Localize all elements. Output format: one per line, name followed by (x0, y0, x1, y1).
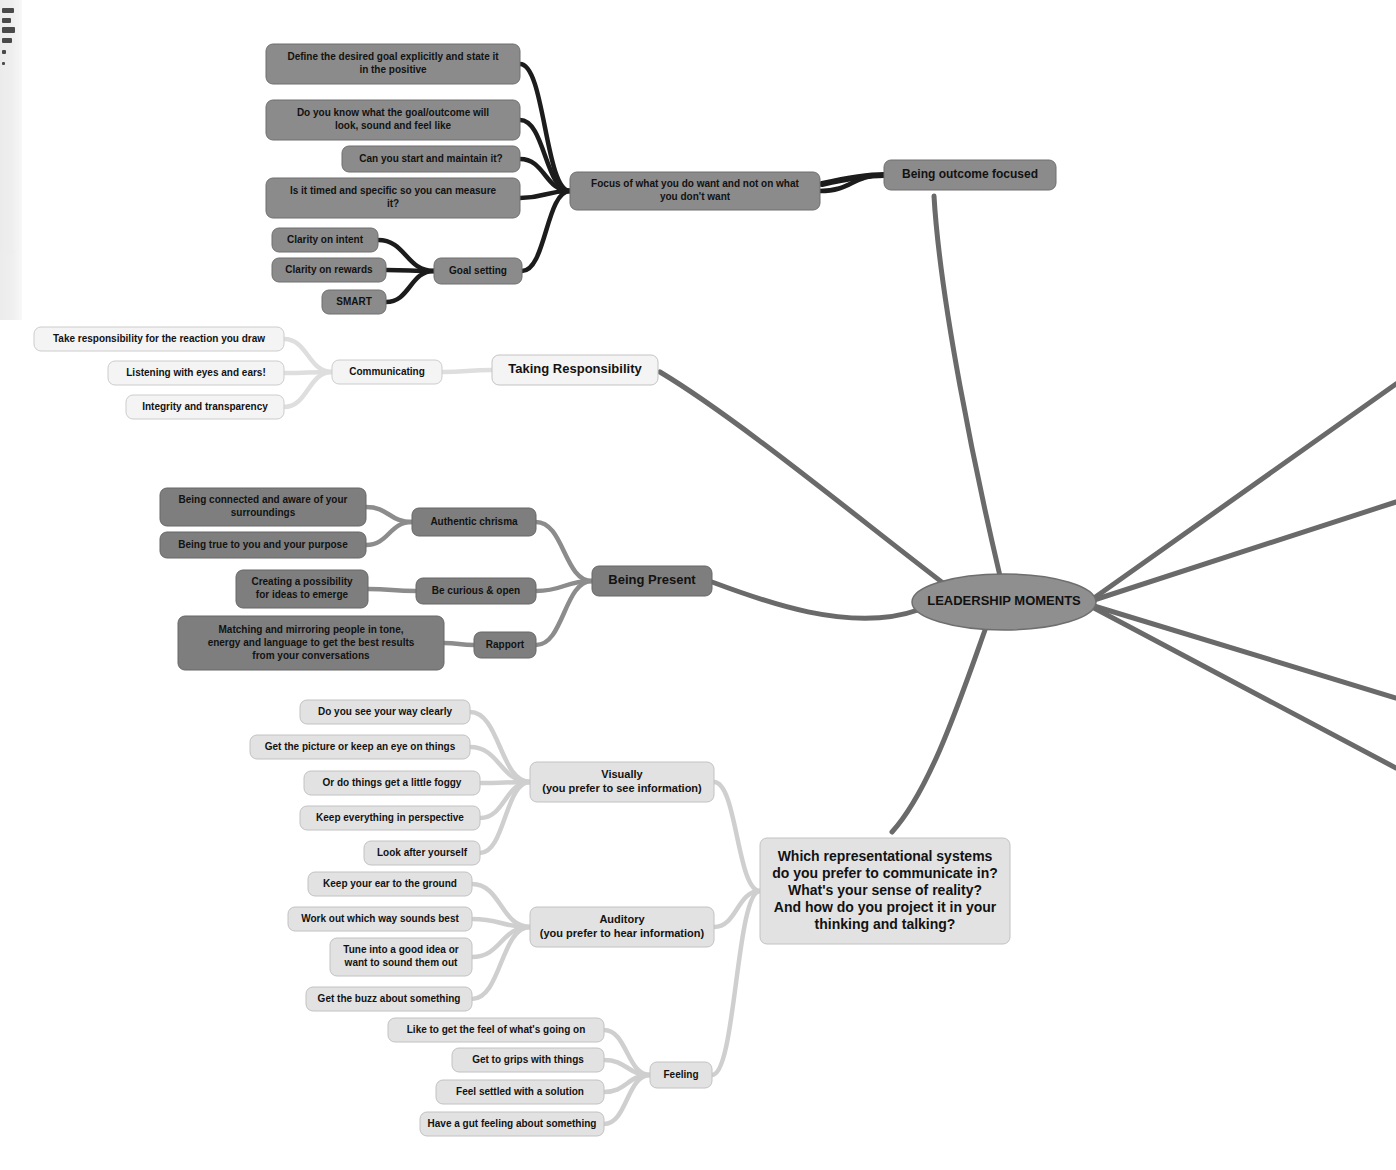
node-take-responsibility-for-reaction[interactable]: Take responsibility for the reaction you… (34, 327, 284, 351)
edge-taking-responsibility-to-communicating (442, 370, 492, 372)
node-shape-do-you-see-your-way-clearly (300, 700, 470, 724)
node-auditory[interactable]: Auditory(you prefer to hear information) (530, 907, 714, 947)
node-feeling[interactable]: Feeling (650, 1062, 712, 1088)
node-shape-taking-responsibility (492, 355, 658, 385)
node-shape-creating-a-possibility (236, 570, 368, 608)
node-focus-of-what-you-want[interactable]: Focus of what you do want and not on wha… (570, 172, 820, 210)
center-ellipse (912, 574, 1096, 630)
node-be-curious-and-open[interactable]: Be curious & open (416, 578, 536, 604)
node-shape-authentic-chrisma (412, 508, 536, 536)
node-keep-everything-in-perspective[interactable]: Keep everything in perspective (300, 806, 480, 830)
node-matching-and-mirroring[interactable]: Matching and mirroring people in tone,en… (178, 616, 444, 670)
node-feel-settled-with-a-solution[interactable]: Feel settled with a solution (436, 1080, 604, 1104)
edge-center-to-taking-responsibility (660, 372, 960, 596)
edge-feeling-to-get-to-grips-with-things (604, 1060, 650, 1075)
node-keep-your-ear-to-the-ground[interactable]: Keep your ear to the ground (308, 872, 472, 896)
node-get-the-buzz-about-something[interactable]: Get the buzz about something (306, 987, 472, 1011)
edge-center-to-being-present (712, 582, 918, 618)
edge-center-to-outcome (934, 196, 1000, 576)
node-shape-feel-settled-with-a-solution (436, 1080, 604, 1104)
node-being-present[interactable]: Being Present (592, 566, 712, 596)
node-shape-feeling (650, 1062, 712, 1088)
node-being-outcome-focused[interactable]: Being outcome focused (884, 160, 1056, 190)
node-can-you-start-and-maintain[interactable]: Can you start and maintain it? (342, 146, 520, 172)
node-shape-like-to-get-the-feel (388, 1018, 604, 1042)
edge-authentic-chrisma-to-being-connected-and-aware (366, 507, 412, 522)
node-shape-visually (530, 762, 714, 802)
node-shape-listening-with-eyes-and-ears (108, 361, 284, 385)
node-clarity-on-rewards[interactable]: Clarity on rewards (272, 258, 386, 282)
edge-right-1 (1094, 384, 1396, 598)
node-do-you-know-what-goal-will[interactable]: Do you know what the goal/outcome willlo… (266, 100, 520, 140)
node-shape-tune-into-a-good-idea (330, 938, 472, 976)
node-shape-being-connected-and-aware (160, 488, 366, 526)
node-shape-work-out-which-way-sounds-best (288, 907, 472, 931)
node-authentic-chrisma[interactable]: Authentic chrisma (412, 508, 536, 536)
node-shape-define-desired-goal (266, 44, 520, 84)
edge-auditory-to-get-the-buzz-about-something (472, 927, 530, 999)
node-goal-setting[interactable]: Goal setting (434, 258, 522, 284)
node-shape-being-outcome-focused (884, 160, 1056, 190)
center-node[interactable]: LEADERSHIP MOMENTS (912, 574, 1096, 630)
edge-communicating-to-take-responsibility-for-reaction (284, 339, 332, 372)
node-shape-take-responsibility-for-reaction (34, 327, 284, 351)
node-rapport[interactable]: Rapport (474, 632, 536, 658)
node-shape-have-a-gut-feeling (420, 1112, 604, 1136)
node-taking-responsibility[interactable]: Taking Responsibility (492, 355, 658, 385)
edge-goal-setting-to-smart (386, 271, 434, 302)
edge-right-2 (1094, 502, 1396, 600)
node-smart[interactable]: SMART (322, 290, 386, 314)
node-look-after-yourself[interactable]: Look after yourself (364, 841, 480, 865)
node-shape-being-true-to-you (160, 532, 366, 558)
node-shape-or-do-things-get-foggy (304, 771, 480, 795)
node-shape-get-to-grips-with-things (452, 1048, 604, 1072)
node-tune-into-a-good-idea[interactable]: Tune into a good idea orwant to sound th… (330, 938, 472, 976)
mindmap-svg: Being outcome focusedFocus of what you d… (0, 0, 1396, 1170)
node-shape-rapport (474, 632, 536, 658)
node-representational-systems[interactable]: Which representational systemsdo you pre… (760, 838, 1010, 944)
node-communicating[interactable]: Communicating (332, 360, 442, 384)
node-shape-focus-of-what-you-want (570, 172, 820, 210)
node-shape-be-curious-and-open (416, 578, 536, 604)
node-integrity-and-transparency[interactable]: Integrity and transparency (126, 395, 284, 419)
node-shape-keep-everything-in-perspective (300, 806, 480, 830)
node-shape-look-after-yourself (364, 841, 480, 865)
node-shape-clarity-on-rewards (272, 258, 386, 282)
node-shape-representational-systems (760, 838, 1010, 944)
node-do-you-see-your-way-clearly[interactable]: Do you see your way clearly (300, 700, 470, 724)
node-shape-do-you-know-what-goal-will (266, 100, 520, 140)
node-get-the-picture[interactable]: Get the picture or keep an eye on things (250, 735, 470, 759)
node-or-do-things-get-foggy[interactable]: Or do things get a little foggy (304, 771, 480, 795)
node-clarity-on-intent[interactable]: Clarity on intent (272, 228, 378, 252)
node-listening-with-eyes-and-ears[interactable]: Listening with eyes and ears! (108, 361, 284, 385)
edge-focus-of-what-you-want-to-goal-setting (522, 191, 570, 271)
node-have-a-gut-feeling[interactable]: Have a gut feeling about something (420, 1112, 604, 1136)
node-visually[interactable]: Visually(you prefer to see information) (530, 762, 714, 802)
node-shape-goal-setting (434, 258, 522, 284)
edge-rapport-to-matching-and-mirroring (444, 643, 474, 645)
node-work-out-which-way-sounds-best[interactable]: Work out which way sounds best (288, 907, 472, 931)
node-shape-smart (322, 290, 386, 314)
edge-communicating-to-integrity-and-transparency (284, 372, 332, 407)
node-shape-get-the-picture (250, 735, 470, 759)
node-shape-clarity-on-intent (272, 228, 378, 252)
node-shape-get-the-buzz-about-something (306, 987, 472, 1011)
node-shape-keep-your-ear-to-the-ground (308, 872, 472, 896)
node-shape-integrity-and-transparency (126, 395, 284, 419)
node-shape-matching-and-mirroring (178, 616, 444, 670)
node-being-connected-and-aware[interactable]: Being connected and aware of yoursurroun… (160, 488, 366, 526)
node-is-it-timed-and-specific[interactable]: Is it timed and specific so you can meas… (266, 178, 520, 218)
edge-being-present-to-authentic-chrisma (536, 522, 592, 581)
edge-right-3 (1094, 606, 1396, 698)
node-creating-a-possibility[interactable]: Creating a possibilityfor ideas to emerg… (236, 570, 368, 608)
node-shape-can-you-start-and-maintain (342, 146, 520, 172)
edge-center-to-repsystems (892, 630, 985, 832)
node-like-to-get-the-feel[interactable]: Like to get the feel of what's going on (388, 1018, 604, 1042)
node-shape-being-present (592, 566, 712, 596)
node-get-to-grips-with-things[interactable]: Get to grips with things (452, 1048, 604, 1072)
node-define-desired-goal[interactable]: Define the desired goal explicitly and s… (266, 44, 520, 84)
edge-representational-systems-to-feeling (712, 891, 760, 1075)
node-shape-communicating (332, 360, 442, 384)
node-being-true-to-you[interactable]: Being true to you and your purpose (160, 532, 366, 558)
edge-representational-systems-to-visually (714, 782, 760, 891)
